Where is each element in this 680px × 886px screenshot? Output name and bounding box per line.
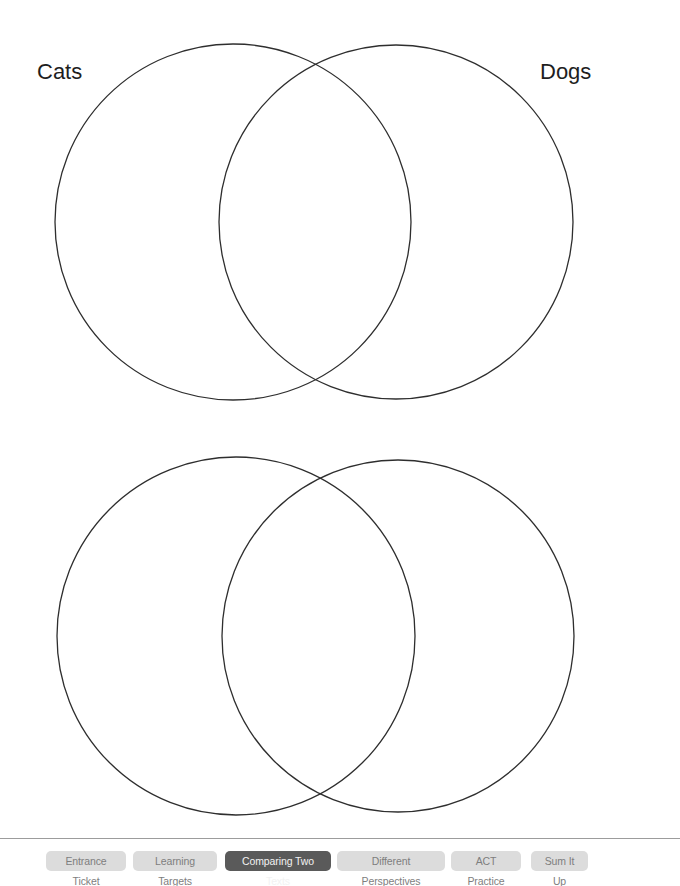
nav-act-practice-button[interactable]: ACT Practice — [451, 851, 521, 871]
nav-learning-targets-button[interactable]: Learning Targets — [133, 851, 217, 871]
venn-diagrams — [0, 0, 680, 886]
nav-comparing-two-texts-button[interactable]: Comparing Two Texts — [225, 851, 331, 871]
nav-entrance-ticket-button[interactable]: Entrance Ticket — [46, 851, 126, 871]
nav-different-perspectives-button[interactable]: Different Perspectives — [337, 851, 445, 871]
venn-circle-cats — [55, 44, 411, 400]
venn-diagram-top — [55, 44, 573, 400]
venn-circle-dogs — [219, 45, 573, 399]
venn-circle-right — [222, 460, 574, 812]
footer-divider — [0, 838, 680, 839]
venn-label-dogs: Dogs — [540, 59, 591, 85]
lesson-nav: Entrance Ticket Learning Targets Compari… — [0, 851, 680, 873]
nav-sum-it-up-button[interactable]: Sum It Up — [531, 851, 588, 871]
venn-label-cats: Cats — [37, 59, 82, 85]
venn-diagram-bottom — [57, 457, 574, 815]
venn-circle-left — [57, 457, 415, 815]
